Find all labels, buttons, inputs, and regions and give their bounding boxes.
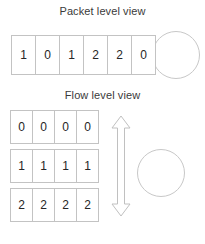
flow-cell: 1 — [10, 149, 33, 183]
flow-packet-diagram: Packet level view 1 0 1 2 2 0 Flow level… — [0, 0, 205, 244]
flow-destination-circle-icon — [137, 149, 185, 197]
flow-cell: 0 — [32, 110, 55, 144]
flow-cell: 2 — [54, 188, 77, 222]
packet-cell: 2 — [107, 35, 132, 75]
flow-cell: 0 — [10, 110, 33, 144]
flow-level-cell-row: 1 1 1 1 — [10, 149, 99, 183]
flow-cell: 0 — [54, 110, 77, 144]
packet-level-cell-row: 1 0 1 2 2 0 — [11, 35, 156, 75]
flow-cell: 2 — [10, 188, 33, 222]
flow-cell: 1 — [32, 149, 55, 183]
packet-cell: 0 — [131, 35, 156, 75]
packet-destination-circle-icon — [152, 31, 200, 79]
flow-cell: 2 — [76, 188, 99, 222]
packet-cell: 1 — [11, 35, 36, 75]
double-headed-vertical-arrow-icon — [108, 114, 134, 218]
flow-cell: 1 — [76, 149, 99, 183]
flow-level-cell-row: 0 0 0 0 — [10, 110, 99, 144]
flow-cell: 1 — [54, 149, 77, 183]
flow-cell: 2 — [32, 188, 55, 222]
flow-cell: 0 — [76, 110, 99, 144]
packet-level-view-title: Packet level view — [0, 5, 205, 17]
packet-cell: 2 — [83, 35, 108, 75]
packet-cell: 1 — [59, 35, 84, 75]
flow-level-cell-row: 2 2 2 2 — [10, 188, 99, 222]
flow-level-view-title: Flow level view — [0, 89, 205, 101]
packet-cell: 0 — [35, 35, 60, 75]
